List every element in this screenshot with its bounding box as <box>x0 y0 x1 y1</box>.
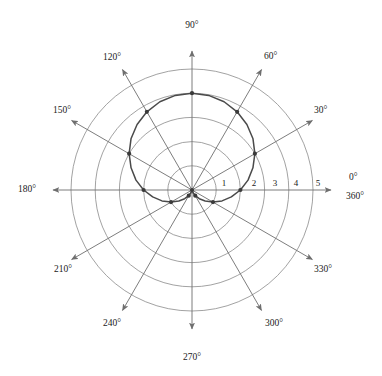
angle-axis-30-label: 30° <box>314 105 328 115</box>
radial-tick-label-5: 5 <box>316 178 321 188</box>
angle-axis-210-label: 210° <box>54 264 72 274</box>
angle-axis-90-label: 90° <box>185 20 199 30</box>
angle-axis-360-label: 360° <box>346 191 364 201</box>
data-point-marker-120 <box>145 110 149 114</box>
data-point-marker-210 <box>169 200 173 204</box>
data-point-marker-270 <box>190 188 194 192</box>
radial-tick-label-1: 1 <box>222 178 227 188</box>
data-point-marker-90 <box>190 91 194 95</box>
angle-axis-330-label: 330° <box>314 264 332 274</box>
angle-axis-240-label: 240° <box>103 318 121 328</box>
data-point-marker-0 <box>238 188 242 192</box>
data-point-marker-150 <box>127 152 131 156</box>
angle-axis-60-label: 60° <box>264 51 278 61</box>
radial-tick-label-4: 4 <box>294 178 299 188</box>
data-point-marker-180 <box>142 188 146 192</box>
data-point-marker-300 <box>193 194 197 198</box>
angle-axis-270-label: 270° <box>183 352 201 362</box>
data-point-marker-60 <box>235 110 239 114</box>
radial-tick-label-3: 3 <box>273 178 278 188</box>
angle-axis-150-label: 150° <box>53 105 71 115</box>
angle-axis-0-label: 0° <box>349 172 358 182</box>
polar-plot-figure: 0°360°30°60°90°120°150°180°210°240°270°3… <box>0 0 382 376</box>
data-point-marker-330 <box>211 200 215 204</box>
polar-plot-canvas: 0°360°30°60°90°120°150°180°210°240°270°3… <box>0 0 382 376</box>
angle-axis-120-label: 120° <box>103 52 121 62</box>
data-point-marker-30 <box>253 152 257 156</box>
angle-axis-300-label: 300° <box>265 318 283 328</box>
data-point-marker-240 <box>187 194 191 198</box>
radial-tick-label-2: 2 <box>252 178 257 188</box>
angle-axis-180-label: 180° <box>18 184 36 194</box>
